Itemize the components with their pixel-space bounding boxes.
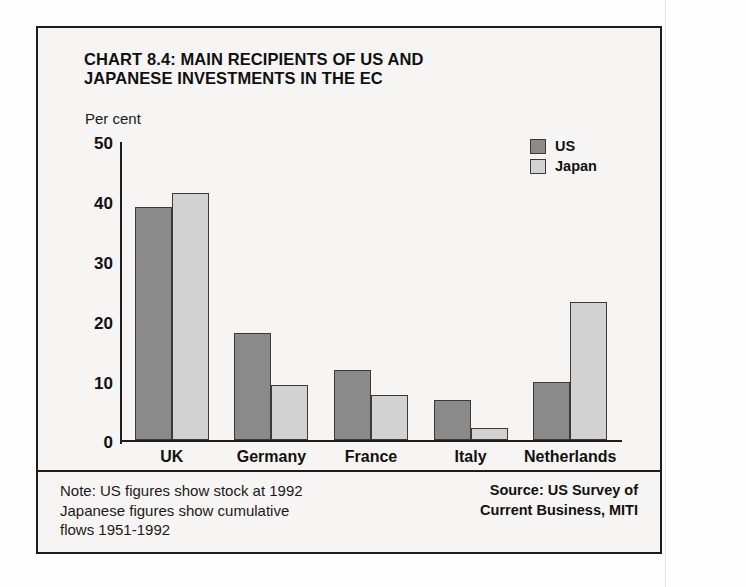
source-line-1: Source: US Survey of	[480, 481, 638, 501]
y-tick-20: 20	[94, 314, 113, 334]
note-line-2: Japanese figures show cumulative	[60, 501, 303, 521]
bar-group-italy	[421, 140, 521, 440]
y-tick-0: 0	[104, 433, 113, 453]
x-axis-line	[120, 440, 622, 442]
chart-footer: Note: US figures show stock at 1992 Japa…	[38, 472, 660, 554]
y-tick-40: 40	[94, 194, 113, 214]
bar-us-uk	[135, 207, 172, 440]
bar-us-germany	[234, 333, 271, 440]
bar-japan-netherlands	[570, 302, 607, 440]
x-axis-category-labels: UKGermanyFranceItalyNetherlands	[122, 448, 620, 466]
x-label-italy: Italy	[421, 448, 521, 466]
bar-japan-france	[371, 395, 408, 440]
bar-us-netherlands	[533, 382, 570, 440]
bars-layer	[122, 140, 620, 440]
page-canvas: CHART 8.4: MAIN RECIPIENTS OF US AND JAP…	[0, 0, 746, 587]
source-text: Source: US Survey of Current Business, M…	[480, 481, 642, 520]
note-line-3: flows 1951-1992	[60, 520, 303, 540]
bar-group-netherlands	[520, 140, 620, 440]
bar-group-uk	[122, 140, 222, 440]
chart-title-line-1: CHART 8.4: MAIN RECIPIENTS OF US AND	[84, 50, 604, 69]
y-tick-50: 50	[94, 134, 113, 154]
page-fold-line	[665, 0, 666, 587]
bar-group-france	[321, 140, 421, 440]
chart-frame: CHART 8.4: MAIN RECIPIENTS OF US AND JAP…	[36, 26, 662, 554]
y-tick-30: 30	[94, 254, 113, 274]
bar-japan-germany	[271, 385, 308, 440]
x-label-netherlands: Netherlands	[520, 448, 620, 466]
plot-area: 50 40 30 20 10 0	[120, 142, 620, 442]
chart-title: CHART 8.4: MAIN RECIPIENTS OF US AND JAP…	[84, 50, 604, 88]
bar-japan-uk	[172, 193, 209, 440]
bar-japan-italy	[471, 428, 508, 440]
x-label-germany: Germany	[222, 448, 322, 466]
bar-group-germany	[222, 140, 322, 440]
y-axis-unit-label: Per cent	[85, 110, 141, 127]
x-label-france: France	[321, 448, 421, 466]
note-line-1: Note: US figures show stock at 1992	[60, 481, 303, 501]
y-tick-10: 10	[94, 374, 113, 394]
bar-us-france	[334, 370, 371, 440]
note-text: Note: US figures show stock at 1992 Japa…	[60, 481, 303, 540]
x-label-uk: UK	[122, 448, 222, 466]
chart-title-line-2: JAPANESE INVESTMENTS IN THE EC	[84, 69, 604, 88]
bar-us-italy	[434, 400, 471, 440]
source-line-2: Current Business, MITI	[480, 501, 638, 521]
